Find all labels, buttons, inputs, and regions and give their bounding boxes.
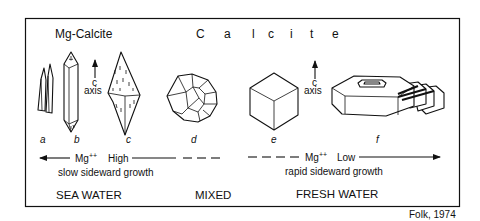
c-axis-left-axis: axis [84, 85, 102, 96]
env-sea-water: SEA WATER [56, 189, 122, 201]
mg-low-charge: ++ [319, 151, 327, 158]
env-fresh-water: FRESH WATER [296, 188, 378, 200]
crystal-e-rhombohedron [250, 73, 298, 130]
crystal-label-c: c [126, 134, 131, 145]
crystal-f-tabular [332, 76, 444, 116]
title-calcite: C a l c i t e [196, 27, 339, 41]
crystal-c-scalenohedron [108, 52, 140, 135]
crystal-label-b: b [74, 134, 80, 145]
svg-text:Mg++: Mg++ [305, 151, 327, 163]
crystal-a-needles [38, 64, 53, 113]
mg-high-ion: Mg [75, 153, 89, 164]
svg-text:Mg++: Mg++ [75, 152, 97, 164]
title-mg-calcite: Mg-Calcite [55, 27, 113, 41]
calcite-morphology-diagram: Mg-Calcite C a l c i t e c axis [0, 0, 480, 221]
mg-low-ion: Mg [305, 152, 319, 163]
crystal-label-e: e [271, 134, 277, 145]
title-letter: i [290, 27, 293, 41]
title-letter: l [252, 27, 255, 41]
mg-low-level: Low [337, 152, 356, 163]
slow-growth-label: slow sideward growth [58, 167, 154, 178]
title-letter: c [268, 27, 274, 41]
mg-low-gradient: Mg++ Low rapid sideward growth [248, 151, 440, 177]
title-letter: a [224, 27, 231, 41]
mg-high-level: High [108, 153, 129, 164]
crystal-labels: a b c d e f [40, 134, 380, 145]
citation: Folk, 1974 [409, 209, 456, 220]
c-axis-left: c axis [84, 60, 102, 96]
crystal-label-d: d [191, 134, 197, 145]
title-letter: t [310, 27, 314, 41]
crystal-label-f: f [376, 134, 380, 145]
crystal-label-a: a [40, 134, 46, 145]
crystal-b-prism [64, 52, 78, 132]
c-axis-right: c axis [304, 61, 322, 96]
title-letter: e [332, 27, 339, 41]
title-letter: C [196, 27, 205, 41]
mg-high-charge: ++ [89, 152, 97, 159]
rapid-growth-label: rapid sideward growth [285, 166, 383, 177]
env-mixed: MIXED [195, 189, 231, 201]
crystal-d-equant [167, 74, 217, 122]
mg-high-gradient: Mg++ High slow sideward growth [40, 152, 220, 178]
c-axis-right-axis: axis [304, 85, 322, 96]
